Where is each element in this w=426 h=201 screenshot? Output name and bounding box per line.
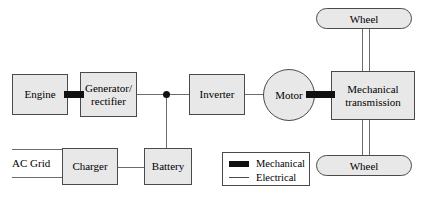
legend-item-mechanical: Mechanical: [229, 158, 305, 169]
block-battery[interactable]: Battery: [144, 148, 192, 185]
wire-inverter-to-motor: [245, 94, 265, 95]
block-wheel-top[interactable]: Wheel: [316, 8, 412, 29]
legend-box: Mechanical Electrical: [222, 152, 310, 186]
block-inverter[interactable]: Inverter: [189, 74, 245, 115]
legend-item-mechanical-label: Mechanical: [256, 158, 305, 169]
block-engine-label: Engine: [24, 88, 55, 100]
block-wheel-bottom-label: Wheel: [350, 160, 379, 172]
block-battery-label: Battery: [152, 160, 184, 172]
block-mechanical-transmission[interactable]: Mechanical transmission: [331, 71, 415, 120]
block-generator-rectifier[interactable]: Generator/ rectifier: [80, 72, 137, 117]
wire-dcbus-to-battery: [166, 94, 167, 149]
legend-item-electrical-label: Electrical: [256, 172, 296, 183]
wire-acgrid-bottom: [12, 177, 62, 178]
legend-item-electrical: Electrical: [229, 172, 296, 183]
block-wheel-bottom[interactable]: Wheel: [316, 155, 412, 176]
block-mechanical-transmission-label-line1: Mechanical: [347, 83, 398, 96]
wire-charger-to-battery: [118, 167, 144, 168]
block-inverter-label: Inverter: [200, 88, 235, 100]
block-charger-label: Charger: [72, 160, 107, 172]
block-wheel-top-label: Wheel: [350, 13, 379, 25]
wire-acgrid-top: [12, 149, 62, 150]
dc-bus-junction-dot: [163, 91, 170, 98]
mechanical-link-engine-generator: [64, 91, 84, 98]
block-motor-label: Motor: [275, 89, 303, 101]
electrical-swatch-icon: [229, 177, 249, 178]
block-charger[interactable]: Charger: [62, 148, 118, 185]
mechanical-link-motor-transmission: [306, 91, 335, 98]
block-generator-rectifier-label-line2: rectifier: [91, 95, 126, 108]
block-generator-rectifier-label-line1: Generator/: [85, 82, 132, 95]
block-engine[interactable]: Engine: [12, 74, 68, 115]
block-mechanical-transmission-label-line2: transmission: [345, 96, 401, 109]
mechanical-swatch-icon: [229, 161, 249, 167]
ac-grid-label: AC Grid: [12, 157, 50, 169]
powertrain-block-diagram: Engine Generator/ rectifier Inverter Mot…: [0, 0, 426, 201]
